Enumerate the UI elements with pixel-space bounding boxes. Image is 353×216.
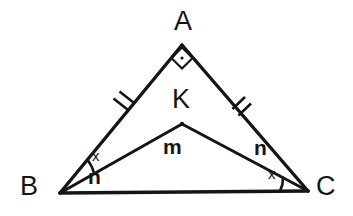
angle-label-n-at-b: n xyxy=(88,166,101,187)
vertex-label-a: A xyxy=(174,8,192,35)
segment-bc xyxy=(60,191,308,193)
vertex-point-k xyxy=(180,122,184,126)
vertex-label-b: B xyxy=(20,173,38,200)
angle-label-n-at-c: n xyxy=(254,137,267,158)
segment-ac xyxy=(182,45,308,191)
angle-arc-at-c xyxy=(280,178,283,191)
right-angle-marker-icon xyxy=(171,47,192,68)
vertex-label-c: C xyxy=(316,173,336,200)
vertex-label-k: K xyxy=(172,86,190,113)
angle-label-m-at-k: m xyxy=(163,136,182,157)
angle-label-x-at-b: x xyxy=(92,148,100,163)
tick-marks-ac-icon xyxy=(233,97,252,116)
angle-label-x-at-c: x xyxy=(268,166,276,181)
geometry-diagram: B C A K x n m n x xyxy=(0,0,353,216)
segment-ab xyxy=(60,45,182,193)
segment-kc xyxy=(182,124,308,191)
